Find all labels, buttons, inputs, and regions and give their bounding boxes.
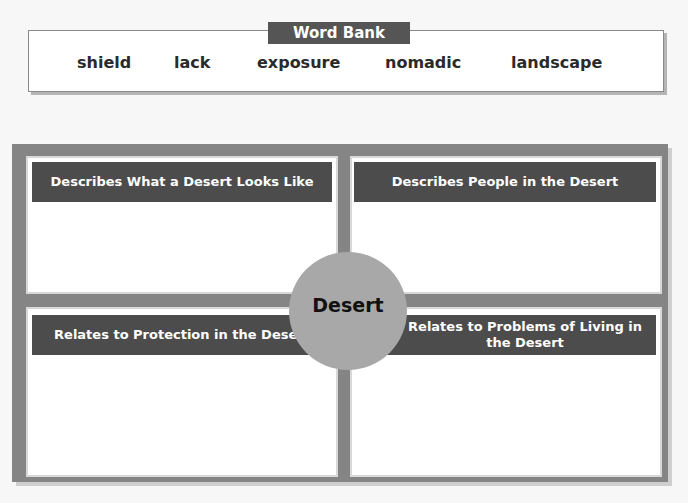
center-topic-label: Desert xyxy=(312,294,383,316)
quadrant-top-right[interactable]: Describes People in the Desert xyxy=(350,156,662,294)
quadrant-top-left[interactable]: Describes What a Desert Looks Like xyxy=(26,156,338,294)
word-bank-title: Word Bank xyxy=(268,22,410,44)
quadrant-heading: Describes What a Desert Looks Like xyxy=(32,162,332,202)
center-topic-circle: Desert xyxy=(289,252,407,370)
word-bank-word: nomadic xyxy=(385,53,461,72)
word-bank-word: lack xyxy=(174,53,210,72)
quadrant-heading: Describes People in the Desert xyxy=(354,162,656,202)
word-bank-word: landscape xyxy=(511,53,602,72)
quadrant-heading: Relates to Protection in the Desert xyxy=(32,315,332,355)
word-bank-word: exposure xyxy=(257,53,340,72)
quadrant-bottom-left[interactable]: Relates to Protection in the Desert xyxy=(26,307,338,477)
word-bank-word: shield xyxy=(77,53,131,72)
